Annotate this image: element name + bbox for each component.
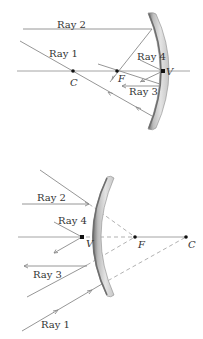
ray-3-label: Ray 3: [129, 86, 158, 97]
concave-ray-2: [23, 29, 152, 82]
convex-ray-3: [24, 237, 135, 297]
ray-1-label: Ray 1: [41, 319, 70, 330]
convex-ray-4: [54, 222, 82, 253]
vertex-point: [161, 69, 165, 73]
focal-point: [133, 235, 137, 239]
focal-label: F: [137, 239, 146, 250]
vertex-point: [80, 235, 84, 239]
concave-ray-1: [20, 41, 152, 116]
center-point: [71, 69, 75, 73]
concave-mirror-diagram: Ray 2 Ray 1 Ray 4 Ray 3 C F V: [17, 13, 190, 130]
vertex-label: V: [166, 66, 175, 77]
ray-2-label: Ray 2: [57, 19, 86, 30]
ray-4-label: Ray 4: [58, 215, 87, 226]
ray-diagram-canvas: Ray 2 Ray 1 Ray 4 Ray 3 C F V: [0, 0, 203, 339]
ray-2-label: Ray 2: [37, 192, 66, 203]
ray-1-label: Ray 1: [49, 48, 78, 59]
convex-ray-2: [22, 170, 135, 237]
convex-mirror-diagram: Ray 2 Ray 4 Ray 3 Ray 1 V F C: [18, 170, 196, 331]
ray-4-label: Ray 4: [137, 51, 166, 62]
center-label: C: [70, 77, 78, 88]
focal-label: F: [117, 73, 126, 84]
ray-3-label: Ray 3: [33, 269, 62, 280]
center-label: C: [188, 239, 196, 250]
